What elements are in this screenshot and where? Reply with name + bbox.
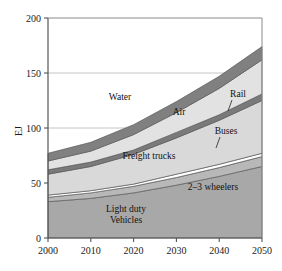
y-tick-label-200: 200 <box>26 13 41 24</box>
y-tick-label-100: 100 <box>26 123 41 134</box>
series-label-vehicles: Vehicles <box>110 215 142 225</box>
x-tick-label-2010: 2010 <box>81 245 101 256</box>
x-tick-label-2030: 2030 <box>166 245 186 256</box>
stacked-area-chart: 200150100500 200020102020203020402050 EJ… <box>0 0 282 271</box>
series-label-water: Water <box>109 92 132 102</box>
series-label-buses: Buses <box>215 126 238 136</box>
y-tick-label-150: 150 <box>26 68 41 79</box>
x-axis-ticks: 200020102020203020402050 <box>38 238 272 256</box>
series-bands <box>48 47 262 238</box>
y-axis-ticks: 200150100500 <box>26 13 48 244</box>
series-label-2-3-wheelers: 2–3 wheelers <box>188 182 239 192</box>
series-label-air: Air <box>173 107 187 117</box>
chart-canvas: 200150100500 200020102020203020402050 EJ… <box>0 0 282 271</box>
x-tick-label-2050: 2050 <box>252 245 272 256</box>
series-label-freight-trucks: Freight trucks <box>122 151 175 161</box>
y-axis-title: EJ <box>13 126 24 136</box>
series-label-light-duty: Light duty <box>106 204 146 214</box>
series-label-rail: Rail <box>230 89 246 99</box>
y-tick-label-50: 50 <box>31 178 41 189</box>
x-tick-label-2000: 2000 <box>38 245 58 256</box>
x-tick-label-2040: 2040 <box>209 245 229 256</box>
x-tick-label-2020: 2020 <box>124 245 144 256</box>
y-tick-label-0: 0 <box>36 233 41 244</box>
